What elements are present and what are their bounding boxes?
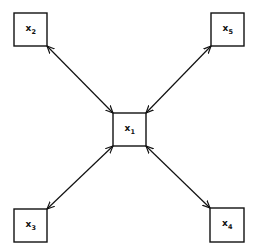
node-subscript: 3 xyxy=(32,224,37,232)
diagram-canvas: x1x2x5x3x4 xyxy=(0,0,253,250)
node-x5: x5 xyxy=(211,13,244,46)
edge-x1-x5 xyxy=(146,46,211,113)
node-x4: x4 xyxy=(210,208,244,242)
node-x1: x1 xyxy=(113,113,146,146)
node-x3: x3 xyxy=(14,209,47,242)
node-subscript: 5 xyxy=(229,28,234,36)
node-subscript: 1 xyxy=(131,128,136,136)
node-x2: x2 xyxy=(14,13,47,46)
node-subscript: 2 xyxy=(32,28,37,36)
edge-x1-x3 xyxy=(47,146,113,209)
edge-x1-x4 xyxy=(146,146,210,208)
node-subscript: 4 xyxy=(228,223,233,231)
edge-x1-x2 xyxy=(47,46,113,113)
